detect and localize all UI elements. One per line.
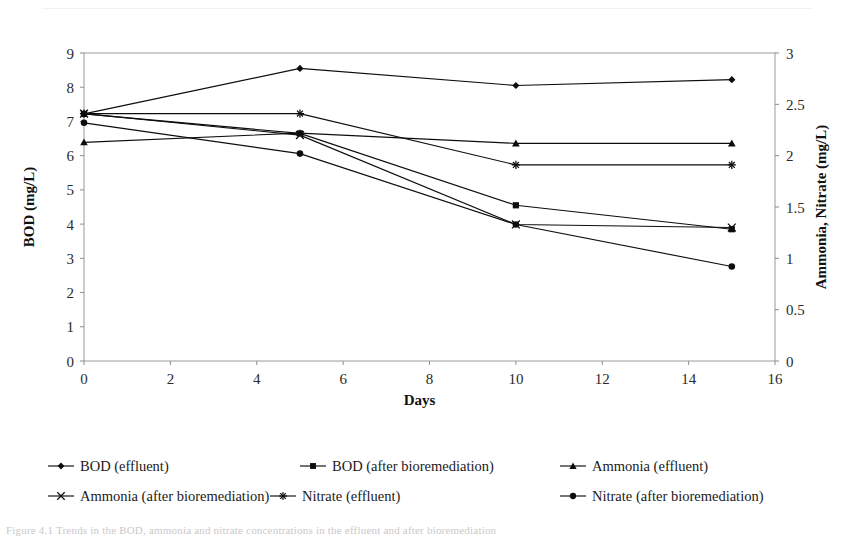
series-3 <box>80 110 736 232</box>
data-point-asterisk <box>80 109 88 117</box>
figure-container: 012345678900.511.522.530246810121416Days… <box>0 0 854 546</box>
figure-caption: Figure 4.1 Trends in the BOD, ammonia an… <box>6 524 848 536</box>
series-line <box>84 133 732 143</box>
legend-label: Ammonia (after bioremediation) <box>80 488 269 505</box>
x-axis-title: Days <box>404 392 436 408</box>
x-tick-label: 14 <box>681 371 697 387</box>
legend-label: Nitrate (effluent) <box>302 488 401 505</box>
data-point-square <box>513 202 519 208</box>
data-point-diamond <box>728 76 735 83</box>
data-point-square <box>310 463 316 469</box>
legend-label: Nitrate (after bioremediation) <box>592 488 764 505</box>
data-point-circle <box>513 221 520 228</box>
x-tick-label: 16 <box>768 371 784 387</box>
legend-item[interactable]: BOD (after bioremediation) <box>300 458 494 475</box>
legend-item[interactable]: Nitrate (effluent) <box>270 488 401 505</box>
series-line <box>84 123 732 267</box>
legend-item[interactable]: Ammonia (effluent) <box>560 458 708 475</box>
y-right-tick-label: 1 <box>786 251 794 267</box>
y-left-tick-label: 9 <box>67 46 75 62</box>
y-right-tick-label: 0.5 <box>786 302 805 318</box>
legend-label: BOD (after bioremediation) <box>332 458 494 475</box>
y-right-axis-title: Ammonia, Nitrate (mg/L) <box>813 125 830 290</box>
legend-item[interactable]: Nitrate (after bioremediation) <box>560 488 764 505</box>
data-point-asterisk <box>279 492 287 500</box>
series-5 <box>81 120 735 270</box>
chart-plot: 012345678900.511.522.530246810121416Days… <box>0 0 854 546</box>
series-line <box>84 114 732 229</box>
y-left-tick-label: 0 <box>67 354 75 370</box>
data-point-circle <box>297 150 304 157</box>
y-right-tick-label: 3 <box>786 46 794 62</box>
data-point-diamond <box>296 65 303 72</box>
y-left-tick-label: 3 <box>67 251 75 267</box>
y-left-tick-label: 2 <box>67 285 75 301</box>
series-line <box>84 68 732 114</box>
series-line <box>84 114 732 228</box>
legend-label: BOD (effluent) <box>80 458 169 475</box>
data-point-asterisk <box>512 161 520 169</box>
x-tick-label: 0 <box>80 371 88 387</box>
x-tick-label: 10 <box>508 371 523 387</box>
series-0 <box>80 65 735 118</box>
x-tick-label: 6 <box>339 371 347 387</box>
data-point-asterisk <box>296 109 304 117</box>
legend-item[interactable]: BOD (effluent) <box>48 458 169 475</box>
y-left-tick-label: 5 <box>67 182 75 198</box>
x-tick-label: 12 <box>595 371 610 387</box>
legend-item[interactable]: Ammonia (after bioremediation) <box>48 488 269 505</box>
data-point-circle <box>729 263 736 270</box>
legend-label: Ammonia (effluent) <box>592 458 708 475</box>
data-point-diamond <box>512 82 519 89</box>
x-tick-label: 2 <box>167 371 175 387</box>
x-tick-label: 8 <box>426 371 434 387</box>
data-point-asterisk <box>728 161 736 169</box>
y-left-tick-label: 8 <box>67 80 75 96</box>
y-left-axis-title: BOD (mg/L) <box>21 167 38 247</box>
data-point-circle <box>81 120 88 127</box>
series-line <box>84 114 732 165</box>
series-2 <box>80 129 735 146</box>
y-left-tick-label: 6 <box>67 148 75 164</box>
y-right-tick-label: 2.5 <box>786 97 805 113</box>
data-point-circle <box>570 493 576 499</box>
y-right-tick-label: 0 <box>786 354 794 370</box>
y-right-tick-label: 2 <box>786 148 794 164</box>
y-left-tick-label: 4 <box>67 217 75 233</box>
y-right-tick-label: 1.5 <box>786 200 805 216</box>
series-1 <box>81 111 735 233</box>
y-left-tick-label: 1 <box>67 319 75 335</box>
x-tick-label: 4 <box>253 371 261 387</box>
series-4 <box>80 109 736 169</box>
y-left-tick-label: 7 <box>67 114 75 130</box>
plot-frame <box>84 53 775 361</box>
data-point-diamond <box>58 463 65 470</box>
